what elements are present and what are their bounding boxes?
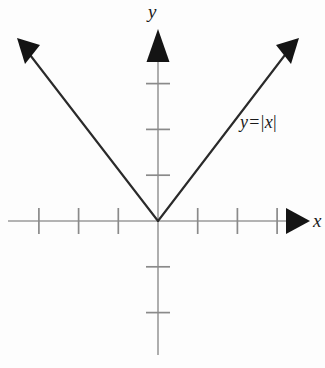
equation-bar-right: | (273, 112, 277, 132)
y-axis-arrowhead-icon (147, 29, 170, 62)
curve-equation-label: y=|x| (240, 113, 277, 131)
curve-left-arrowhead-icon (17, 38, 40, 64)
x-axis-arrowhead-icon (286, 208, 310, 234)
curve-right-branch (158, 51, 288, 221)
equation-equals: = (248, 112, 260, 132)
plot-canvas (0, 0, 325, 368)
equation-x: x (265, 112, 273, 132)
curve-left-branch (27, 51, 158, 221)
absolute-value-graph-figure: y x y=|x| (0, 0, 325, 368)
y-axis-label: y (148, 2, 156, 21)
x-axis-label: x (313, 211, 321, 230)
curve-right-arrowhead-icon (276, 38, 299, 64)
